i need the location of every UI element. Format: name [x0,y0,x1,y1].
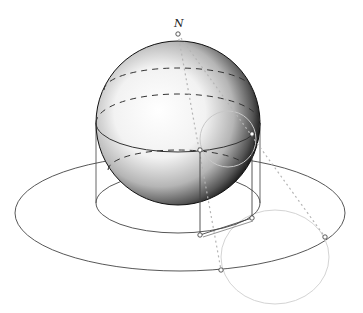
sphere-point-a [250,132,254,136]
north-pole-point [176,32,180,36]
base-point-a [250,216,254,220]
base-chord-1 [200,218,252,235]
base-point-b [198,233,202,237]
stereographic-diagram: N [0,0,363,313]
north-pole-label: N [173,17,184,30]
sphere [96,41,260,205]
sphere-point-b [198,148,202,152]
base-chord-2 [203,221,253,237]
projected-point-a [323,235,327,239]
diagram-canvas: N [0,0,363,313]
projected-point-b [219,268,223,272]
